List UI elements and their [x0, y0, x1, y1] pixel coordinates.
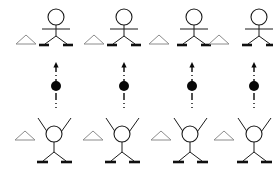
- thrower-leg-left: [113, 36, 124, 44]
- ball: [187, 81, 197, 91]
- thrower-leg-right: [124, 36, 135, 44]
- catcher-head: [114, 126, 130, 142]
- thrower-leg-left: [248, 36, 259, 44]
- catcher-head: [46, 126, 62, 142]
- panel-2: [76, 0, 144, 172]
- catcher-leg-right: [190, 152, 202, 161]
- marker-triangle-top: [84, 35, 104, 44]
- marker-triangle-bottom: [83, 131, 103, 140]
- thrower-head: [186, 9, 202, 25]
- panel-canvas-4: [206, 0, 273, 172]
- catcher-leg-right: [122, 152, 134, 161]
- thrower-leg-right: [56, 36, 67, 44]
- thrower-head: [251, 9, 267, 25]
- catcher-leg-left: [111, 152, 122, 161]
- panel-canvas-3: [144, 0, 212, 172]
- trajectory-arrowhead: [189, 62, 194, 68]
- stick-figure-sequence: [0, 0, 273, 172]
- ball: [51, 81, 61, 91]
- panel-1: [8, 0, 76, 172]
- panel-3: [144, 0, 212, 172]
- ball: [249, 81, 259, 91]
- catcher-leg-left: [243, 152, 254, 161]
- catcher-head: [182, 126, 198, 142]
- marker-triangle-bottom: [151, 131, 171, 140]
- trajectory-arrowhead: [251, 62, 256, 68]
- thrower-leg-left: [45, 36, 56, 44]
- catcher-leg-left: [43, 152, 54, 161]
- thrower-head: [48, 9, 64, 25]
- marker-triangle-top: [16, 35, 36, 44]
- panel-canvas-2: [76, 0, 144, 172]
- thrower-head: [116, 9, 132, 25]
- catcher-head: [246, 126, 262, 142]
- thrower-leg-right: [194, 36, 205, 44]
- ball: [119, 81, 129, 91]
- trajectory-arrowhead: [53, 62, 58, 68]
- thrower-leg-left: [183, 36, 194, 44]
- panel-canvas-1: [8, 0, 76, 172]
- marker-triangle-bottom: [15, 131, 35, 140]
- thrower-leg-right: [259, 36, 270, 44]
- marker-triangle-bottom: [214, 131, 234, 140]
- panel-4: [206, 0, 273, 172]
- catcher-leg-right: [254, 152, 266, 161]
- catcher-leg-right: [54, 152, 66, 161]
- catcher-leg-left: [179, 152, 190, 161]
- marker-triangle-top: [149, 35, 169, 44]
- trajectory-arrowhead: [121, 62, 126, 68]
- marker-triangle-top: [209, 35, 229, 44]
